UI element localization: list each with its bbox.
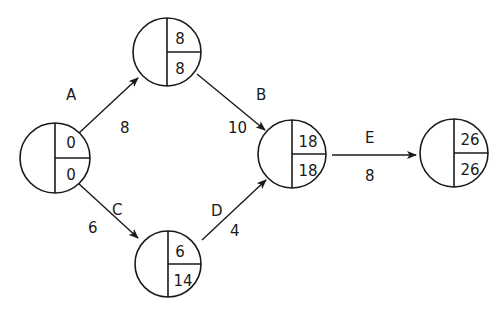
edge-b-duration: 10 xyxy=(228,119,247,137)
edge-e-activity: E xyxy=(365,129,374,147)
node-latest: 14 xyxy=(173,272,192,290)
edge-a-duration: 8 xyxy=(120,119,130,137)
edge-d-activity: D xyxy=(211,202,223,220)
node-2: 8 8 xyxy=(133,18,201,86)
node-1: 0 0 xyxy=(20,123,90,193)
node-latest: 18 xyxy=(298,162,317,180)
node-earliest: 18 xyxy=(298,133,317,151)
node-latest: 26 xyxy=(460,161,479,179)
edge-labels: A 8 B 10 C 6 D 4 E 8 xyxy=(66,86,375,240)
edge-b-activity: B xyxy=(256,86,266,104)
edge-e-duration: 8 xyxy=(365,167,375,185)
node-earliest: 26 xyxy=(460,131,479,149)
node-earliest: 0 xyxy=(66,134,76,152)
edge-d-duration: 4 xyxy=(230,222,240,240)
network-diagram: A 8 B 10 C 6 D 4 E 8 0 0 8 8 6 14 18 xyxy=(0,0,503,315)
node-earliest: 6 xyxy=(175,243,185,261)
node-5: 26 26 xyxy=(420,119,488,187)
edge-c xyxy=(78,183,138,238)
node-latest: 0 xyxy=(66,166,76,184)
node-latest: 8 xyxy=(175,60,185,78)
node-3: 6 14 xyxy=(135,231,201,297)
edge-a-activity: A xyxy=(66,86,77,104)
edge-c-activity: C xyxy=(112,201,122,219)
edges xyxy=(78,74,416,240)
edge-c-duration: 6 xyxy=(88,219,98,237)
node-4: 18 18 xyxy=(258,120,326,188)
node-earliest: 8 xyxy=(175,30,185,48)
